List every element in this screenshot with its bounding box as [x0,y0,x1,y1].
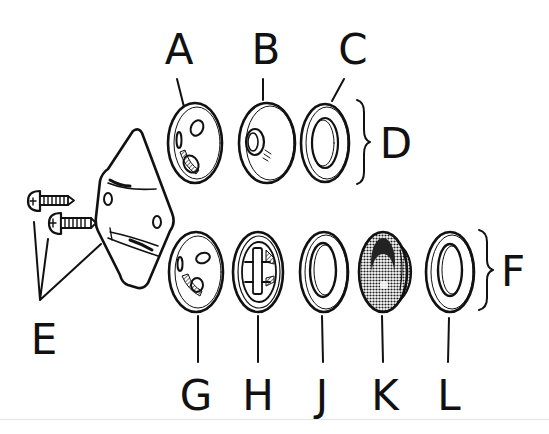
label-h: H [242,371,274,420]
screw-upper [28,191,74,211]
part-b-disc [239,103,295,183]
part-a-disc [168,103,222,183]
leader-j [322,316,323,362]
label-b: B [252,25,281,74]
part-g-disc [169,232,223,312]
brace-f [479,230,493,310]
part-j-washer [300,232,348,312]
label-a: A [165,25,194,74]
leader-c [332,79,344,101]
label-l: L [437,371,461,420]
leader-a [177,79,184,107]
part-k-cup [359,232,411,312]
leader-k [382,316,383,362]
part-l-washer [426,232,474,312]
mounting-bracket [96,129,174,288]
label-c: C [338,25,367,74]
label-e: E [31,315,58,364]
leader-e [34,222,101,300]
parts-diagram: A B C D [0,0,549,434]
page-edge-line [0,419,549,420]
label-g: G [180,371,213,420]
part-c-washer [301,104,349,182]
leader-l [448,318,449,362]
label-d: D [380,119,412,168]
label-f: F [501,247,525,296]
part-h-disc [233,232,283,312]
screw-lower [49,213,96,234]
label-k: K [371,371,400,420]
label-j: J [313,371,328,420]
brace-d [357,100,370,184]
